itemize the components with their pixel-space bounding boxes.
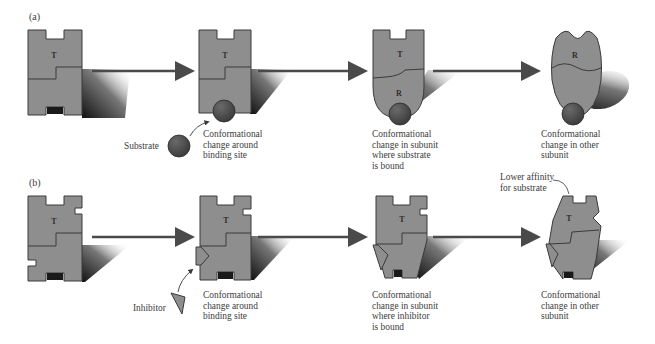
subunit-shape [28,196,82,281]
subunit-label: T [566,214,572,223]
subunit-label: T [223,216,229,225]
callout-lower-affinity: Lower affinity for substrate [500,172,554,193]
caption-a-2: Conformational change around binding sit… [203,129,262,161]
shadow [251,236,295,280]
subunit-label-bottom: R [396,89,402,98]
caption-a-4: Conformational change in other subunit [541,129,600,161]
subunit-shape [549,196,601,279]
panel-a-stage-3: T R [373,30,462,125]
caption-b-4: Conformational change in other subunit [541,290,600,322]
shadow [82,245,130,282]
substrate-bound [562,103,584,125]
subunit-label: T [222,51,228,60]
subunit-label-top: T [397,50,403,59]
subunit-label: T [51,217,57,226]
binding-site [564,272,573,278]
subunit-label: T [399,215,405,224]
caption-b-3: Conformational change in subunit where i… [372,290,438,332]
binding-site [218,272,233,279]
binding-site [394,270,402,277]
callout-line [553,180,569,194]
inhibitor-label: Inhibitor [133,303,166,314]
subunit-label: R [572,51,578,60]
subunit-label: T [51,51,57,60]
substrate-bound [213,100,235,122]
panel-a-stage-4: R [552,31,635,125]
panel-a-label: (a) [29,11,40,22]
panel-b-label: (b) [29,177,41,188]
curved-arrow [178,270,192,292]
substrate-bound [389,103,411,125]
substrate-ball [168,135,190,157]
subunit-shape [28,30,82,115]
binding-site [47,107,63,114]
panel-a-stage-1: T [28,30,130,118]
panel-b-stage-4: T [546,180,630,279]
shadow [82,69,130,118]
shadow [250,69,292,114]
substrate-label: Substrate [124,141,159,152]
panel-b-stage-1: T [28,196,130,282]
binding-site [47,273,63,280]
panel-a-stage-2: T [199,30,292,122]
caption-b-2: Conformational change around binding sit… [203,290,262,322]
caption-a-3: Conformational change in subunit where s… [372,129,438,171]
inhibitor-shape [171,293,185,314]
